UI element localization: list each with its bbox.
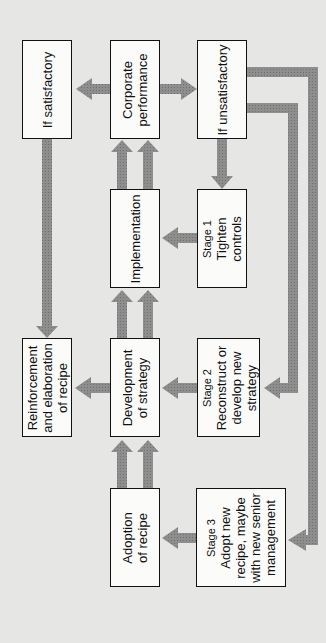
- node-text: performance: [135, 53, 150, 126]
- node-development: Development of strategy: [110, 338, 160, 437]
- node-text: of recipe: [135, 512, 150, 563]
- diagram-canvas: If satisfactory Corporate performance If…: [0, 0, 326, 643]
- node-text: with new senior: [248, 493, 263, 583]
- arrow-implementation-to-corporate-2: [137, 140, 159, 189]
- arrow-development-to-implementation-2: [137, 290, 159, 338]
- arrow-adoption-to-development-1: [111, 440, 133, 488]
- arrow-unsatisfactory-to-stage1: [211, 138, 233, 189]
- node-text: develop new: [228, 345, 243, 430]
- node-adoption: Adoption of recipe: [110, 488, 160, 587]
- stage-label: Stage 2: [199, 345, 213, 430]
- node-text: Reinforcement: [25, 343, 40, 433]
- arrow-satisfactory-to-reinforcement: [36, 139, 58, 338]
- arrow-implementation-to-corporate-1: [111, 140, 133, 189]
- node-text: of recipe: [55, 343, 70, 433]
- node-corporate-performance: Corporate performance: [110, 40, 160, 139]
- node-text: Tighten: [214, 216, 229, 262]
- node-stage1: Stage 1 Tighten controls: [197, 189, 247, 288]
- node-stage3: Stage 3 Adopt new recipe, maybe with new…: [196, 488, 286, 587]
- arrow-development-to-reinforcement: [75, 377, 110, 399]
- node-text: Development: [120, 349, 135, 426]
- arrow-stage1-to-implementation: [162, 227, 197, 249]
- node-text: of strategy: [135, 349, 150, 426]
- node-text: Reconstruct or: [213, 345, 228, 430]
- node-text: Adoption: [120, 512, 135, 563]
- arrow-corporate-to-unsatisfactory: [160, 78, 197, 100]
- node-stage2: Stage 2 Reconstruct or develop new strat…: [197, 338, 260, 437]
- arrow-adoption-to-development-2: [137, 440, 159, 488]
- node-text: Implementation: [128, 194, 143, 283]
- node-if-unsatisfactory: If unsatisfactory: [197, 40, 247, 139]
- node-text: management: [263, 493, 278, 583]
- node-text: Corporate: [120, 53, 135, 126]
- node-text: If satisfactory: [40, 51, 55, 128]
- arrow-stage2-to-development: [162, 377, 197, 399]
- node-text: Adopt new: [218, 493, 233, 583]
- node-text: controls: [229, 216, 244, 262]
- node-reinforcement: Reinforcement and elaboration of recipe: [22, 338, 72, 437]
- node-text: recipe, maybe: [233, 493, 248, 583]
- stage-label: Stage 3: [204, 493, 218, 583]
- node-text: and elaboration: [40, 343, 55, 433]
- node-implementation: Implementation: [110, 189, 160, 288]
- stage-label: Stage 1: [200, 216, 214, 262]
- arrow-development-to-implementation-1: [111, 290, 133, 338]
- arrow-stage3-to-adoption: [162, 527, 197, 549]
- arrow-unsatisfactory-to-stage3: [247, 67, 318, 551]
- arrow-corporate-to-satisfactory: [76, 78, 110, 100]
- node-text: If unsatisfactory: [215, 44, 230, 135]
- node-text: strategy: [243, 345, 258, 430]
- node-if-satisfactory: If satisfactory: [22, 40, 72, 139]
